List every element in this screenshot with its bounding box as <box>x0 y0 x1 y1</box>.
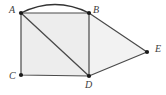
vertex-label-a: A <box>9 5 15 15</box>
vertex-c-dot <box>19 73 23 77</box>
geometry-figure: A B C D E <box>0 0 166 95</box>
vertex-label-e: E <box>155 44 161 54</box>
vertex-label-d: D <box>85 80 92 90</box>
triangle-bde-shape <box>89 13 147 76</box>
vertex-e-dot <box>145 50 149 54</box>
vertex-b-dot <box>87 11 91 15</box>
arc-ab <box>21 5 89 14</box>
vertex-label-b: B <box>93 5 99 15</box>
vertex-d-dot <box>87 74 91 78</box>
vertex-a-dot <box>19 11 23 15</box>
vertex-label-c: C <box>9 71 16 81</box>
geometry-canvas <box>0 0 166 95</box>
